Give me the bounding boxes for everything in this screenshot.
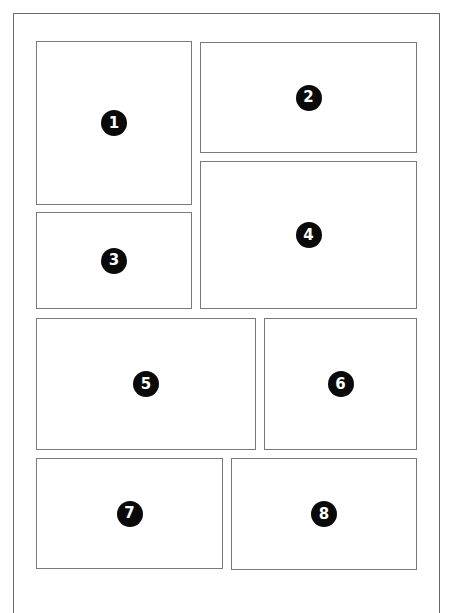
panel-3: 3 (36, 212, 192, 309)
panel-8: 8 (231, 458, 417, 570)
panel-6: 6 (264, 318, 417, 450)
panel-number-badge: 3 (101, 248, 127, 274)
panel-5: 5 (36, 318, 256, 450)
panel-number-badge: 4 (296, 222, 322, 248)
panel-7: 7 (36, 458, 223, 569)
panel-number-badge: 5 (133, 371, 159, 397)
panel-4: 4 (200, 161, 417, 309)
panel-number-badge: 2 (296, 85, 322, 111)
panel-number-badge: 7 (117, 501, 143, 527)
panel-2: 2 (200, 42, 417, 153)
panel-1: 1 (36, 41, 192, 205)
panel-number-badge: 8 (311, 501, 337, 527)
panel-number-badge: 6 (328, 371, 354, 397)
panel-number-badge: 1 (101, 110, 127, 136)
